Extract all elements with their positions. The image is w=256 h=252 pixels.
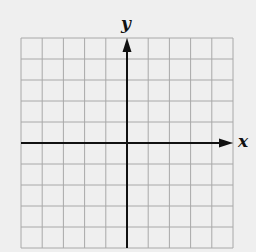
x-axis-arrow-icon [219,139,233,148]
axes [21,38,233,248]
y-axis-label: y [121,13,131,33]
y-axis-arrow-icon [123,38,132,52]
x-axis-label: x [238,131,248,151]
coordinate-grid [0,0,256,252]
